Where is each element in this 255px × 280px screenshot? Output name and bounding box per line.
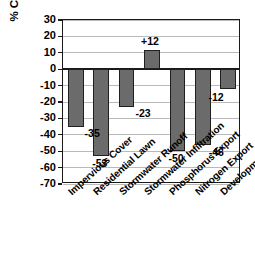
y-axis-tick (58, 134, 62, 135)
gridline (63, 118, 239, 119)
y-axis-tick-label: 10 (16, 47, 56, 57)
gridline (63, 20, 239, 21)
y-axis-tick (58, 36, 62, 37)
bar (144, 50, 160, 70)
y-axis-tick-label: -40 (16, 129, 56, 139)
bar-value-label: +12 (141, 36, 159, 47)
bar (220, 69, 236, 89)
y-axis-tick-label: -30 (16, 112, 56, 122)
gridline (63, 85, 239, 86)
y-axis-tick-label: -10 (16, 80, 56, 90)
y-axis-tick (58, 101, 62, 102)
bar (119, 69, 135, 107)
y-axis-tick (58, 19, 62, 20)
y-axis-tick-label: 30 (16, 14, 56, 24)
y-axis-tick-label: 20 (16, 30, 56, 40)
y-axis-tick (58, 52, 62, 53)
bar (68, 69, 84, 126)
y-axis-tick (58, 183, 62, 184)
y-axis-tick (58, 167, 62, 168)
bar (93, 69, 109, 156)
y-axis-tick (58, 69, 62, 70)
y-axis-tick (58, 85, 62, 86)
y-axis-tick-label: -70 (16, 178, 56, 188)
y-axis-tick-label: -60 (16, 162, 56, 172)
y-axis-tick-label: -20 (16, 96, 56, 106)
chart-figure: % Change in Site Indicators 3020100-10-2… (0, 0, 255, 280)
bar-value-label: -35 (85, 128, 100, 139)
y-axis-tick-label: -50 (16, 145, 56, 155)
y-axis-tick (58, 151, 62, 152)
bar-value-label: -12 (208, 92, 223, 103)
y-axis-tick (58, 118, 62, 119)
bar-value-label: -23 (135, 108, 150, 119)
y-axis-tick-label: 0 (16, 63, 56, 73)
